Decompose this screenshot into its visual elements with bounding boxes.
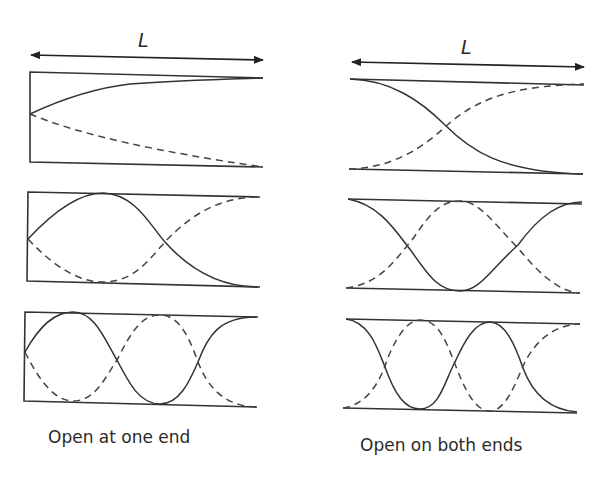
dashed-wave (25, 315, 256, 407)
solid-wave (30, 78, 263, 114)
tube-top-wall (346, 319, 580, 324)
right-length-label: L (461, 36, 472, 58)
solid-wave (25, 312, 256, 404)
left-length-label: L (138, 29, 149, 51)
right-caption: Open on both ends (360, 435, 522, 455)
left-tube-mode-1 (30, 72, 263, 167)
tube-bottom-wall (343, 408, 577, 413)
solid-wave (350, 79, 583, 174)
right-tube-mode-3 (343, 319, 580, 413)
left-tube-mode-2 (27, 192, 260, 287)
dashed-wave (343, 320, 580, 411)
left-caption: Open at one end (48, 427, 190, 447)
tube-top-wall (348, 199, 582, 204)
left-length-arrow (31, 55, 263, 60)
tube-outline (30, 72, 263, 167)
solid-wave (28, 193, 258, 287)
tube-top-wall (350, 79, 584, 85)
dashed-wave (349, 84, 584, 169)
dashed-wave (28, 197, 258, 282)
right-length-arrow (352, 62, 584, 67)
tube-outline (27, 192, 260, 287)
right-tube-mode-1 (349, 79, 584, 174)
left-panel: L Open at one end (24, 29, 263, 447)
solid-wave (346, 319, 577, 412)
left-tube-mode-3 (24, 312, 258, 407)
right-panel: L Open on both ends (343, 36, 584, 455)
dashed-wave (30, 114, 263, 167)
right-tube-mode-2 (346, 199, 582, 293)
standing-waves-diagram: L Open at one end L (0, 0, 599, 482)
tube-outline (24, 312, 258, 407)
